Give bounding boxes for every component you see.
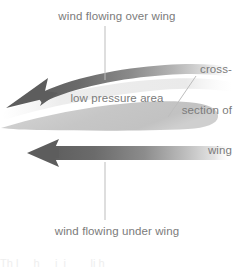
airfoil-lift-diagram: wind flowing over wing low pressure area…	[0, 0, 234, 268]
label-wind-flowing-under-wing: wind flowing under wing	[0, 225, 234, 239]
label-cross-section-line-3: wing	[172, 144, 232, 158]
label-cross-section-of-wing: cross- section of wing	[172, 36, 232, 185]
label-cross-section-line-2: section of	[172, 104, 232, 118]
label-wind-flowing-over-wing: wind flowing over wing	[0, 10, 234, 24]
label-cross-section-line-1: cross-	[172, 63, 232, 77]
clipped-caption-fragment: Th l h i i li h	[0, 258, 234, 268]
